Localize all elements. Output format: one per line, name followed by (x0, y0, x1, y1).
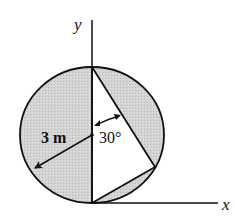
y-axis-label: y (72, 15, 82, 34)
radius-label: 3 m (41, 129, 67, 146)
x-axis-label: x (221, 195, 230, 214)
diagram-canvas: y x 3 m 30° (0, 0, 235, 222)
center-dot (90, 133, 94, 137)
angle-label: 30° (99, 129, 121, 146)
